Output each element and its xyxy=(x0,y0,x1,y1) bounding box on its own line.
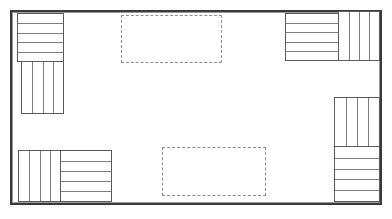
stripe-line xyxy=(359,12,360,60)
stripe-line xyxy=(61,191,111,192)
stripe-line xyxy=(335,158,379,159)
bottom-left-vertical-block-stripes xyxy=(19,151,60,201)
stripe-line xyxy=(53,62,54,113)
top-right-horizontal-block-stripes xyxy=(286,14,338,60)
stripe-line xyxy=(18,33,63,34)
lower-dashed-zone[interactable] xyxy=(162,147,266,196)
bottom-right-vertical-block-stripes xyxy=(335,98,379,146)
top-left-vertical-block-stripes xyxy=(22,62,63,113)
stripe-line xyxy=(40,151,41,201)
bottom-left-horizontal-block-stripes xyxy=(61,151,111,201)
stripe-line xyxy=(61,171,111,172)
upper-dashed-zone[interactable] xyxy=(121,15,222,63)
stripe-line xyxy=(18,23,63,24)
top-right-vertical-block[interactable] xyxy=(338,11,380,61)
stripe-line xyxy=(335,179,379,180)
bottom-left-horizontal-block[interactable] xyxy=(60,150,112,202)
stripe-line xyxy=(18,52,63,53)
bottom-right-horizontal-block[interactable] xyxy=(334,146,380,202)
stripe-line xyxy=(18,42,63,43)
stripe-line xyxy=(357,98,358,146)
top-left-vertical-block[interactable] xyxy=(21,61,64,114)
bottom-right-vertical-block[interactable] xyxy=(334,97,380,147)
stripe-line xyxy=(369,12,370,60)
stripe-line xyxy=(43,62,44,113)
stripe-line xyxy=(32,62,33,113)
bottom-left-vertical-block[interactable] xyxy=(18,150,61,202)
stripe-line xyxy=(335,190,379,191)
stripe-line xyxy=(61,161,111,162)
stripe-line xyxy=(29,151,30,201)
top-right-horizontal-block[interactable] xyxy=(285,13,339,61)
floor-plan-canvas xyxy=(0,0,392,219)
top-left-horizontal-block-stripes xyxy=(18,14,63,61)
bottom-right-horizontal-block-stripes xyxy=(335,147,379,201)
stripe-line xyxy=(286,23,338,24)
stripe-line xyxy=(61,181,111,182)
stripe-line xyxy=(349,12,350,60)
stripe-line xyxy=(286,42,338,43)
stripe-line xyxy=(346,98,347,146)
stripe-line xyxy=(286,32,338,33)
stripe-line xyxy=(335,169,379,170)
top-right-vertical-block-stripes xyxy=(339,12,379,60)
top-left-horizontal-block[interactable] xyxy=(17,13,64,62)
stripe-line xyxy=(368,98,369,146)
stripe-line xyxy=(50,151,51,201)
stripe-line xyxy=(286,51,338,52)
